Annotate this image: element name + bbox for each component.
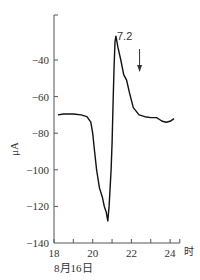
annotation-label: 7.2 [117,30,132,42]
data-series [58,36,174,221]
x-tick-label: 18 [49,247,61,259]
line-chart: −40−60−80−100−120−14018202224 [0,0,200,280]
y-tick-label: −40 [32,54,50,66]
series-line [58,36,174,221]
x-axis-date-label: 8月16日 [54,259,93,275]
y-tick-label: −140 [26,237,49,249]
x-tick-label: 22 [126,247,137,259]
down-arrow-icon [137,49,142,72]
x-tick-label: 24 [165,247,177,259]
y-tick-label: −120 [26,200,49,212]
axes [54,15,180,243]
y-axis-label: μA [8,142,20,156]
y-tick-label: −60 [32,91,50,103]
axis-ticks: −40−60−80−100−120−14018202224 [26,54,179,259]
x-axis-unit-label: 时 [184,243,194,258]
y-tick-label: −80 [32,127,50,139]
x-tick-label: 20 [87,247,99,259]
y-tick-label: −100 [26,164,49,176]
